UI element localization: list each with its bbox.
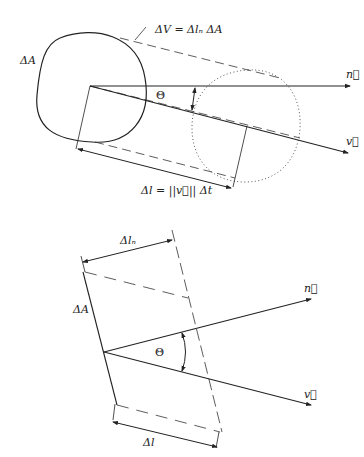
normal-label: n⃗ bbox=[304, 282, 318, 295]
velocity-label: v⃗ bbox=[346, 135, 359, 148]
area-edge bbox=[83, 272, 117, 405]
normal-length-label: Δlₙ bbox=[119, 234, 136, 247]
delta-l-arrow bbox=[78, 149, 231, 188]
angle-arc bbox=[182, 333, 186, 371]
normal-label: n⃗ bbox=[346, 68, 360, 81]
area-label: ΔA bbox=[19, 54, 36, 67]
length-label: Δl bbox=[142, 436, 155, 449]
volume-label: ΔV = Δlₙ ΔA bbox=[154, 23, 222, 36]
velocity-label: v⃗ bbox=[304, 388, 317, 401]
flux-diagram: ΔA ΔV = Δlₙ ΔA n⃗ v⃗ Θ Δl = ||v⃗|| Δt Δl… bbox=[0, 0, 364, 457]
angle-label: Θ bbox=[156, 89, 165, 102]
top-panel: ΔA ΔV = Δlₙ ΔA n⃗ v⃗ Θ Δl = ||v⃗|| Δt bbox=[19, 23, 360, 198]
velocity-vector bbox=[104, 352, 311, 405]
bottom-panel: Δlₙ ΔA n⃗ v⃗ Θ Δl bbox=[72, 230, 318, 449]
area-label: ΔA bbox=[72, 303, 89, 316]
delta-l-arrow bbox=[113, 422, 217, 447]
normal-vector bbox=[104, 299, 311, 352]
area-surface bbox=[37, 33, 147, 143]
angle-arc bbox=[192, 88, 195, 110]
velocity-vector bbox=[90, 86, 348, 153]
length-label: Δl = ||v⃗|| Δt bbox=[140, 184, 213, 198]
translated-area bbox=[192, 70, 300, 182]
angle-label: Θ bbox=[155, 346, 164, 359]
